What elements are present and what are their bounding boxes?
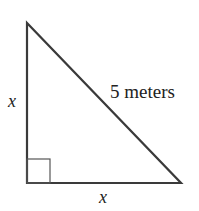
hypotenuse-label: 5 meters (110, 81, 175, 102)
triangle-figure: x x 5 meters (0, 0, 199, 211)
bottom-leg-label: x (98, 187, 107, 207)
left-leg-label: x (7, 91, 16, 111)
right-angle-marker (27, 159, 50, 183)
triangle-diagram: x x 5 meters (0, 0, 199, 211)
